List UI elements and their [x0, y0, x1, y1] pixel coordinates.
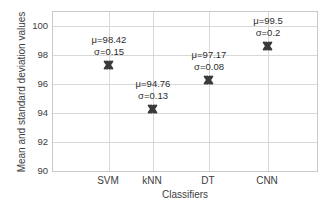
chart-figure: μ=98.42 σ=0.15 μ=94.76 σ=0.13 μ=97.17 σ=…	[0, 0, 331, 207]
data-marker-dt	[203, 75, 216, 86]
annotation-dt-mean: μ=97.17	[172, 49, 246, 61]
annotation-cnn: μ=99.5 σ=0.2	[231, 15, 305, 38]
gridline-y-94	[53, 113, 317, 114]
annotation-svm-sd: σ=0.15	[72, 46, 146, 58]
annotation-knn-sd: σ=0.13	[116, 90, 190, 102]
annotation-cnn-mean: μ=99.5	[231, 15, 305, 27]
x-axis-title: Classifiers	[52, 190, 318, 200]
annotation-knn-mean: μ=94.76	[116, 78, 190, 90]
y-axis-title: Mean and standard deviation values	[17, 7, 27, 177]
data-marker-cnn	[262, 41, 275, 52]
annotation-svm-mean: μ=98.42	[72, 34, 146, 46]
x-tick-label-cnn: CNN	[237, 176, 297, 186]
annotation-dt-sd: σ=0.08	[172, 61, 246, 73]
annotation-dt: μ=97.17 σ=0.08	[172, 49, 246, 72]
x-tick-label-dt: DT	[178, 176, 238, 186]
data-marker-knn	[147, 104, 160, 115]
x-tick-label-knn: kNN	[122, 176, 182, 186]
annotation-svm: μ=98.42 σ=0.15	[72, 34, 146, 57]
annotation-knn: μ=94.76 σ=0.13	[116, 78, 190, 101]
annotation-cnn-sd: σ=0.2	[231, 27, 305, 39]
plot-area: μ=98.42 σ=0.15 μ=94.76 σ=0.13 μ=97.17 σ=…	[52, 11, 318, 172]
gridline-x-dt	[209, 12, 210, 171]
gridline-y-92	[53, 142, 317, 143]
data-marker-svm	[103, 60, 116, 71]
